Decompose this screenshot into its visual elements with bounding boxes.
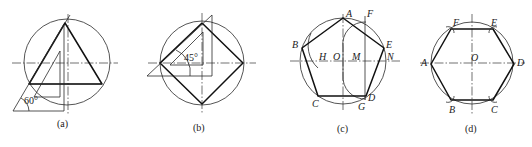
label-H: H <box>318 51 327 62</box>
set-square-60-inner-hyp <box>34 51 60 97</box>
inscribed-square <box>160 23 243 104</box>
panel-a: 60° (a) <box>12 14 118 130</box>
label-B-d: B <box>449 104 455 115</box>
label-O: O <box>333 51 340 62</box>
label-E: E <box>385 39 392 50</box>
label-N: N <box>386 51 395 62</box>
label-M: M <box>351 51 361 62</box>
geometry-figure: 60° (a) 45° (b) A F B E H O <box>0 0 532 147</box>
caption-c: (c) <box>337 123 348 135</box>
label-D: D <box>367 92 376 103</box>
label-C-d: C <box>491 104 498 115</box>
angle-label-60: 60° <box>24 95 38 106</box>
inscribed-hexagon <box>431 29 514 100</box>
label-D-d: D <box>516 57 525 68</box>
label-O-d: O <box>471 52 478 63</box>
label-F-d: F <box>452 17 460 28</box>
label-E-d: E <box>490 17 497 28</box>
label-A-d: A <box>420 57 428 68</box>
angle-label-45: 45° <box>184 52 198 63</box>
caption-d: (d) <box>465 123 477 135</box>
label-A: A <box>345 8 353 19</box>
inscribed-triangle <box>29 23 102 84</box>
label-G: G <box>358 101 365 112</box>
label-F: F <box>366 8 374 19</box>
label-C: C <box>312 98 319 109</box>
caption-a: (a) <box>57 118 68 130</box>
caption-b: (b) <box>193 122 205 134</box>
panel-c: A F B E H O M N C D G (c) <box>290 8 400 135</box>
panel-d: F E A O D B C (d) <box>420 14 525 135</box>
set-square-60-outer <box>13 24 64 111</box>
label-B: B <box>292 39 298 50</box>
panel-b: 45° (b) <box>147 13 256 134</box>
